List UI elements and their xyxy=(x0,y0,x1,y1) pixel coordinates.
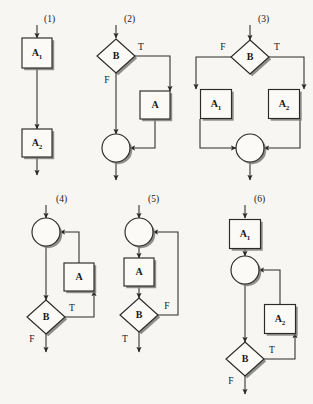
merge-circle xyxy=(125,218,153,246)
diagram-caption: (3) xyxy=(258,14,269,25)
node-label: A xyxy=(151,99,159,110)
diagram-caption: (4) xyxy=(56,194,67,205)
node-process-A1: A1 xyxy=(201,90,234,121)
edge-2 xyxy=(269,57,304,89)
node-label: B xyxy=(113,50,120,61)
flowchart-figure: A1A2(1)BATF(2)BA1A2FT(3)ABTF(4)ABFT(5)A1… xyxy=(0,0,313,404)
merge-circle xyxy=(32,218,60,246)
edge-3 xyxy=(259,270,280,305)
figure-canvas: A1A2(1)BATF(2)BA1A2FT(3)ABTF(4)ABFT(5)A1… xyxy=(0,0,313,404)
node-label: A xyxy=(75,271,83,282)
edge-3 xyxy=(200,119,236,148)
branch-label-T: T xyxy=(69,303,75,313)
edge-1 xyxy=(196,57,231,89)
node-decision-B: B xyxy=(27,300,67,336)
edge-4 xyxy=(264,119,300,148)
diagram-caption: (6) xyxy=(254,194,265,205)
diagram-caption: (5) xyxy=(148,194,159,205)
flowchart-diagram-1: A1A2(1) xyxy=(22,14,55,175)
node-process-A2: A2 xyxy=(269,90,302,121)
node-decision-B: B xyxy=(97,39,137,75)
branch-label-T: T xyxy=(274,42,280,52)
node-process-A1: A1 xyxy=(22,38,54,70)
merge-circle xyxy=(231,256,259,284)
node-merge-1 xyxy=(125,218,155,248)
node-process-A: A xyxy=(64,263,96,293)
node-decision-B: B xyxy=(120,298,160,334)
node-process-A1: A1 xyxy=(230,220,263,251)
flowchart-diagram-4: ABTF(4) xyxy=(27,194,96,352)
node-label: B xyxy=(242,353,249,364)
flowchart-diagram-3: BA1A2FT(3) xyxy=(196,14,304,180)
node-process-A: A xyxy=(140,91,172,121)
branch-label-F: F xyxy=(220,42,225,52)
node-process-A2: A2 xyxy=(265,305,298,336)
flowchart-diagram-5: ABFT(5) xyxy=(120,194,178,352)
branch-label-F: F xyxy=(228,376,233,386)
node-merge-3 xyxy=(102,134,132,164)
flowchart-diagram-6: A1A2BTF(6) xyxy=(226,194,298,394)
flowchart-diagram-2: BATF(2) xyxy=(97,14,172,180)
node-merge-4 xyxy=(236,134,266,164)
node-label: B xyxy=(136,309,143,320)
branch-label-F: F xyxy=(104,75,109,85)
node-merge-2 xyxy=(231,256,261,286)
branch-label-T: T xyxy=(269,345,275,355)
node-label: B xyxy=(43,311,50,322)
merge-circle xyxy=(102,134,130,162)
branch-label-F: F xyxy=(29,334,34,344)
node-process-A: A xyxy=(124,258,156,288)
branch-label-F: F xyxy=(164,301,169,311)
node-merge-1 xyxy=(32,218,62,248)
merge-circle xyxy=(236,134,264,162)
branch-label-T: T xyxy=(138,42,144,52)
diagram-caption: (2) xyxy=(124,14,135,25)
node-label: B xyxy=(247,51,254,62)
node-process-A2: A2 xyxy=(22,129,54,159)
node-decision-B: B xyxy=(226,342,266,378)
diagram-caption: (1) xyxy=(44,14,55,25)
edge-3 xyxy=(130,119,155,148)
edge-2 xyxy=(60,232,79,263)
branch-label-T: T xyxy=(122,334,128,344)
edge-2 xyxy=(135,56,170,91)
node-decision-B: B xyxy=(231,40,271,76)
node-label: A xyxy=(135,266,143,277)
